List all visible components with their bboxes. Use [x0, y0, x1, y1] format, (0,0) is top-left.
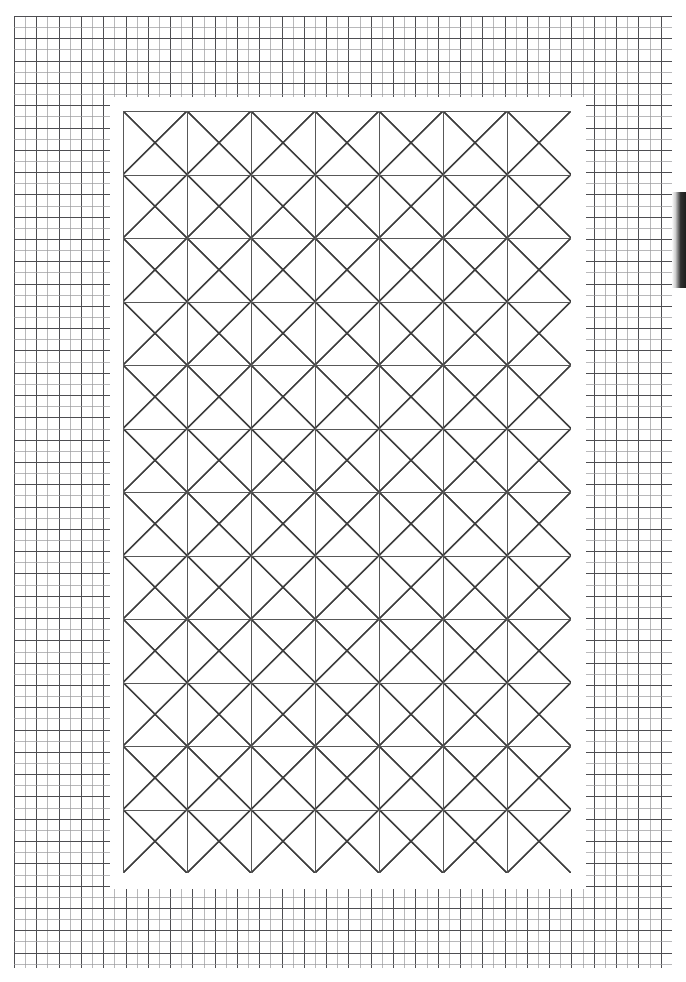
lattice-orthogonals	[123, 111, 571, 873]
bottom-paper-gutter	[0, 968, 686, 982]
lattice-pattern-panel	[123, 111, 571, 873]
right-paper-gutter	[672, 0, 686, 982]
drawing-page: Lattice / trellis pattern drawing on gra…	[0, 0, 686, 982]
page-edge-shadow	[672, 192, 686, 288]
lattice-line-work	[123, 111, 571, 873]
